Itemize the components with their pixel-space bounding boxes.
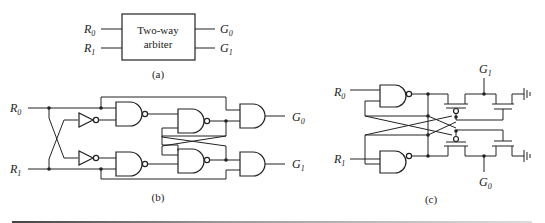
a-output-g1-label: G1 xyxy=(220,41,233,57)
box-label-line1: Two-way xyxy=(137,24,179,36)
a-input-r0-label: R0 xyxy=(83,22,95,38)
nand-top-input xyxy=(116,102,142,126)
b-input-r0-label: R0 xyxy=(9,101,21,117)
c-input-r1-label: R1 xyxy=(333,152,345,168)
a-input-r1-label: R1 xyxy=(83,41,95,57)
and-gate-g0 xyxy=(240,104,265,128)
c-output-g1-label: G1 xyxy=(479,62,492,78)
figure-c-transistor-circuit: R0 R1 xyxy=(333,62,530,206)
inverter-top xyxy=(79,113,93,127)
arbiter-box xyxy=(122,14,195,60)
a-output-g0-label: G0 xyxy=(220,22,233,38)
b-output-g1-label: G1 xyxy=(292,157,305,173)
nand-bottom-input xyxy=(116,152,142,176)
c-nand-top xyxy=(380,85,406,107)
arbiter-figure: Two-way arbiter R0 R1 G0 G1 (a) R0 R1 xyxy=(0,0,545,223)
b-output-g0-label: G0 xyxy=(292,110,305,126)
nand-latch-top xyxy=(178,109,204,133)
transistor-pair-bottom xyxy=(444,129,530,172)
b-input-r1-label: R1 xyxy=(9,162,21,178)
inverter-bottom xyxy=(79,151,93,165)
and-gate-g1 xyxy=(240,152,265,176)
box-label-line2: arbiter xyxy=(144,38,173,50)
caption-c: (c) xyxy=(425,193,438,206)
bottom-rule xyxy=(12,221,532,223)
caption-a: (a) xyxy=(152,68,165,81)
figure-a-block-diagram: Two-way arbiter R0 R1 G0 G1 (a) xyxy=(83,14,233,81)
c-nand-bottom xyxy=(380,151,406,173)
figure-b-gate-circuit: R0 R1 xyxy=(9,97,305,204)
c-output-g0-label: G0 xyxy=(479,175,492,191)
transistor-pair-top xyxy=(444,78,530,120)
nand-latch-bottom xyxy=(178,149,204,173)
c-input-r0-label: R0 xyxy=(333,85,345,101)
caption-b: (b) xyxy=(152,191,165,204)
